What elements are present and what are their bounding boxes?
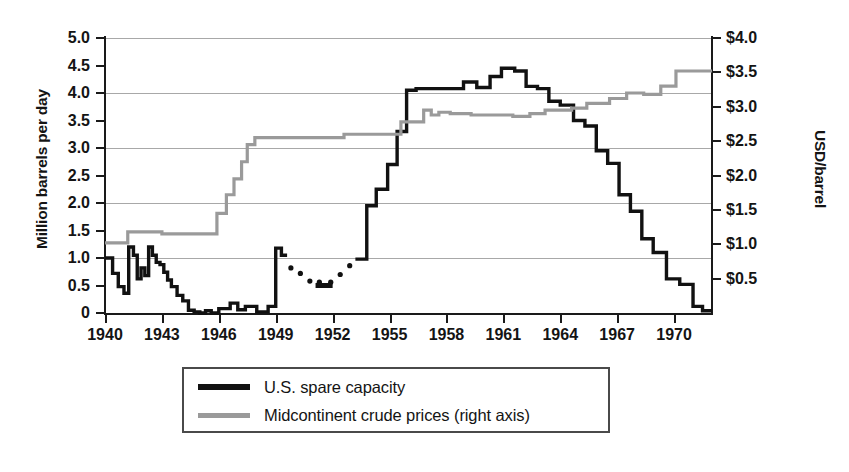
y-axis-left-tick bbox=[96, 92, 104, 94]
y-axis-left-tick bbox=[96, 175, 104, 177]
x-axis-tick bbox=[276, 315, 278, 323]
y-axis-left-tick-label: 2.0 bbox=[28, 195, 90, 211]
chart-container: Million barrels per day USD/barrel 5.04.… bbox=[0, 0, 849, 472]
y-axis-left-tick bbox=[96, 37, 104, 39]
series-line-crude-prices bbox=[105, 71, 712, 243]
x-axis-tick bbox=[560, 315, 562, 323]
y-axis-left-tick bbox=[96, 312, 104, 314]
y-axis-left-tick-label: 0.5 bbox=[28, 278, 90, 294]
y-axis-right-tick-label: $2.0 bbox=[726, 168, 788, 184]
x-axis-tick bbox=[390, 315, 392, 323]
series-point-spare-capacity-estimated bbox=[347, 263, 352, 268]
y-axis-left-tick-label: 4.5 bbox=[28, 58, 90, 74]
y-axis-right-title: USD/barrel bbox=[811, 39, 829, 299]
y-axis-left-tick-label: 2.5 bbox=[28, 168, 90, 184]
y-axis-left-tick-label: 1.5 bbox=[28, 223, 90, 239]
y-axis-right-tick bbox=[713, 278, 721, 280]
x-axis-tick bbox=[617, 315, 619, 323]
series-point-spare-capacity-estimated bbox=[338, 272, 343, 277]
y-axis-right-tick-label: $4.0 bbox=[726, 30, 788, 46]
series-point-spare-capacity-estimated bbox=[307, 279, 312, 284]
y-axis-left-tick bbox=[96, 230, 104, 232]
y-axis-left-tick bbox=[96, 202, 104, 204]
legend-swatch-crude-prices bbox=[198, 413, 250, 418]
x-axis-tick bbox=[105, 315, 107, 323]
series-line-spare-capacity bbox=[105, 247, 287, 313]
y-axis-left-tick bbox=[96, 285, 104, 287]
x-axis-tick bbox=[674, 315, 676, 323]
y-axis-right-tick-label: $3.5 bbox=[726, 64, 788, 80]
y-axis-left-tick bbox=[96, 147, 104, 149]
y-axis-right-tick-label: $1.5 bbox=[726, 202, 788, 218]
y-axis-left-tick-label: 3.0 bbox=[28, 140, 90, 156]
y-axis-right-tick bbox=[713, 71, 721, 73]
series-point-spare-capacity-estimated bbox=[298, 271, 303, 276]
legend-label-crude-prices: Midcontinent crude prices (right axis) bbox=[264, 406, 530, 425]
y-axis-left-tick bbox=[96, 65, 104, 67]
legend-swatch-spare-capacity bbox=[198, 384, 250, 390]
y-axis-left-tick-label: 1.0 bbox=[28, 250, 90, 266]
y-axis-right-tick bbox=[713, 140, 721, 142]
x-axis-tick bbox=[162, 315, 164, 323]
y-axis-left-tick-label: 5.0 bbox=[28, 30, 90, 46]
y-axis-right-tick-label: $3.0 bbox=[726, 99, 788, 115]
y-axis-right-tick-label: $2.5 bbox=[726, 133, 788, 149]
y-axis-left-tick-label: 0 bbox=[28, 305, 90, 321]
series-line-spare-capacity bbox=[355, 68, 712, 311]
legend-label-spare-capacity: U.S. spare capacity bbox=[264, 378, 405, 397]
y-axis-left-tick-label: 4.0 bbox=[28, 85, 90, 101]
legend-item-crude-prices: Midcontinent crude prices (right axis) bbox=[198, 402, 530, 428]
y-axis-right-tick bbox=[713, 243, 721, 245]
y-axis-left-tick bbox=[96, 120, 104, 122]
x-axis-tick-label: 1970 bbox=[639, 327, 709, 343]
x-axis-tick bbox=[446, 315, 448, 323]
chart-legend: U.S. spare capacity Midcontinent crude p… bbox=[182, 367, 610, 433]
legend-item-spare-capacity: U.S. spare capacity bbox=[198, 374, 405, 400]
series-layer bbox=[105, 38, 712, 313]
x-axis-tick bbox=[503, 315, 505, 323]
series-point-spare-capacity-estimated bbox=[288, 265, 293, 270]
y-axis-left-tick-label: 3.5 bbox=[28, 113, 90, 129]
y-axis-left-tick bbox=[96, 257, 104, 259]
y-axis-right-tick bbox=[713, 37, 721, 39]
y-axis-right-tick bbox=[713, 175, 721, 177]
y-axis-right-tick-label: $1.0 bbox=[726, 236, 788, 252]
x-axis-tick bbox=[333, 315, 335, 323]
y-axis-right-tick-label: $0.5 bbox=[726, 271, 788, 287]
y-axis-right-tick bbox=[713, 106, 721, 108]
x-axis-tick bbox=[219, 315, 221, 323]
y-axis-right-tick bbox=[713, 209, 721, 211]
